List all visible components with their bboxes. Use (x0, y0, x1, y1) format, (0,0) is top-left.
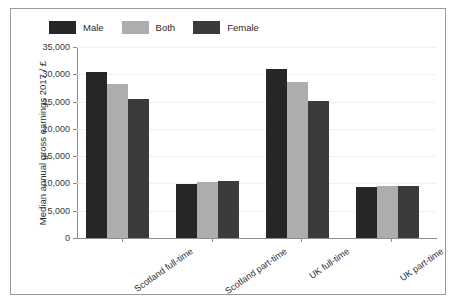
x-axis-category-label: Scotland full-time (132, 246, 194, 294)
bar-both-3 (377, 186, 398, 238)
bar-male-3 (356, 187, 377, 238)
legend-item-male: Male (49, 21, 104, 34)
y-axis-tick-label: 5,000 (47, 206, 70, 216)
y-axis-tick-label: 35,000 (42, 42, 70, 52)
y-axis-tick-label: 30,000 (42, 69, 70, 79)
bar-male-2 (266, 69, 287, 238)
y-axis-tick-label: 0 (65, 233, 70, 243)
bar-male-0 (86, 72, 107, 238)
x-axis-category-label: UK full-time (308, 246, 352, 281)
bar-female-1 (218, 181, 239, 238)
y-axis-tick-label: 15,000 (42, 151, 70, 161)
gridline (77, 47, 436, 48)
x-axis-tick (122, 238, 123, 242)
bar-both-0 (107, 84, 128, 238)
legend-swatch-both (122, 21, 149, 34)
bar-both-1 (197, 182, 218, 238)
y-axis-tick (73, 74, 77, 75)
x-axis-tick (212, 238, 213, 242)
legend-label-both: Both (156, 22, 176, 33)
legend-swatch-female (193, 21, 220, 34)
y-axis-tick (73, 102, 77, 103)
y-axis-tick (73, 47, 77, 48)
gridline (77, 74, 436, 75)
bar-female-0 (128, 99, 149, 238)
x-axis-tick (301, 238, 302, 242)
bar-female-3 (398, 186, 419, 238)
bar-male-1 (176, 184, 197, 238)
y-axis-tick (73, 211, 77, 212)
y-axis-tick-label: 20,000 (42, 124, 70, 134)
x-axis-category-label: Scotland part-time (223, 246, 289, 296)
y-axis-tick-label: 10,000 (42, 178, 70, 188)
legend-item-female: Female (193, 21, 259, 34)
y-axis-tick (73, 129, 77, 130)
legend-label-female: Female (227, 22, 259, 33)
y-axis-tick (73, 156, 77, 157)
y-axis-tick (73, 183, 77, 184)
legend-item-both: Both (122, 21, 176, 34)
plot-area: 05,00010,00015,00020,00025,00030,00035,0… (77, 47, 436, 238)
x-axis-category-label: UK part-time (398, 246, 445, 283)
y-axis-tick-label: 25,000 (42, 97, 70, 107)
chart-legend: Male Both Female (49, 17, 277, 37)
legend-label-male: Male (83, 22, 104, 33)
bar-both-2 (287, 82, 308, 238)
x-axis-line (77, 238, 437, 239)
y-axis-tick (73, 238, 77, 239)
legend-swatch-male (49, 21, 76, 34)
chart-figure: Male Both Female Median annual gross ear… (10, 8, 446, 295)
bar-female-2 (308, 101, 329, 238)
x-axis-tick (391, 238, 392, 242)
